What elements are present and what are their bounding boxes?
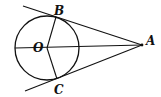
geometry-figure: B O C A — [0, 0, 161, 97]
point-a-dot — [141, 44, 144, 47]
label-c: C — [54, 83, 64, 97]
tangent-ab — [23, 6, 142, 45]
tangent-diagram: B O C A — [0, 0, 161, 97]
radius-ob — [47, 17, 56, 48]
label-b: B — [53, 4, 64, 18]
radius-oc — [47, 48, 57, 79]
label-o: O — [33, 41, 44, 55]
label-a: A — [145, 34, 155, 48]
